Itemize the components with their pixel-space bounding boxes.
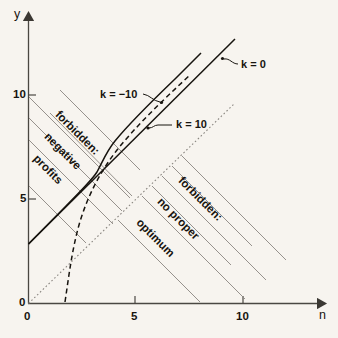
leader-dot-k-0 — [221, 57, 224, 60]
x-tick-label-5: 5 — [131, 311, 137, 323]
x-axis-label: n — [319, 309, 326, 322]
x-tick-label-10: 10 — [236, 311, 249, 323]
y-tick-label-10: 10 — [13, 89, 26, 101]
y-axis-label: y — [14, 8, 20, 21]
curve-label-k-10: k = 10 — [176, 119, 207, 130]
x-tick-label-0: 0 — [24, 311, 30, 323]
curve-label-k-minus-10: k = −10 — [100, 89, 137, 100]
chart-figure: 0 5 10 0 5 10 y n k = 0 k = −10 k = 10 f… — [0, 0, 338, 338]
curve-label-k-0: k = 0 — [241, 59, 266, 70]
leader-dot-k-minus-10 — [160, 101, 163, 104]
y-tick-label-0: 0 — [19, 297, 25, 309]
y-tick-label-5: 5 — [20, 193, 26, 205]
leader-dot-k-10 — [146, 126, 149, 129]
